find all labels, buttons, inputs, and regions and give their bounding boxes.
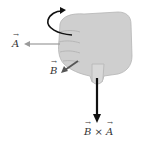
result-a-text: A bbox=[106, 126, 113, 137]
vector-b-label: B bbox=[50, 65, 57, 76]
vector-b-text: B bbox=[50, 65, 57, 76]
hand-illustration bbox=[59, 12, 132, 84]
right-hand-rule-diagram bbox=[0, 0, 142, 144]
vector-a-arrow bbox=[24, 41, 60, 47]
result-b-text: B bbox=[84, 126, 91, 137]
vector-a-text: A bbox=[12, 38, 19, 49]
times-symbol: × bbox=[91, 126, 106, 137]
result-arrow bbox=[93, 78, 101, 123]
vector-a-label: A bbox=[12, 38, 19, 49]
cross-product-label: B × A bbox=[84, 126, 113, 137]
